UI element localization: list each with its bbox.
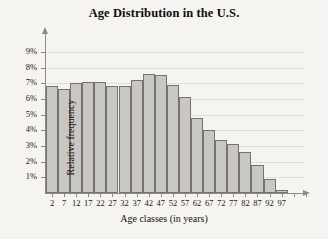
y-axis-tick [41, 130, 46, 131]
y-axis-title: Relative frequency [65, 68, 76, 208]
y-axis-tick [41, 83, 46, 84]
gridline [46, 52, 304, 53]
x-axis-tick [257, 193, 258, 197]
x-axis-tick [149, 193, 150, 197]
plot-area: Relative frequency [46, 44, 304, 193]
y-axis-tick [41, 162, 46, 163]
bar [251, 165, 263, 193]
bar [155, 75, 167, 193]
y-axis-tick-label: 8% [9, 63, 37, 72]
y-axis-tick [41, 68, 46, 69]
x-axis-tick [64, 193, 65, 197]
y-axis-tick-label: 9% [9, 47, 37, 56]
bar [215, 140, 227, 193]
bar [46, 86, 58, 193]
y-axis-tick-label: 2% [9, 157, 37, 166]
y-axis-tick [41, 146, 46, 147]
gridline [46, 68, 304, 69]
x-axis-tick [233, 193, 234, 197]
bar [106, 86, 118, 193]
bar [131, 80, 143, 193]
y-axis-tick-label: 7% [9, 78, 37, 87]
x-axis-tick [245, 193, 246, 197]
x-axis-tick [112, 193, 113, 197]
x-axis-tick [100, 193, 101, 197]
x-axis-tick [161, 193, 162, 197]
x-axis-tick [52, 193, 53, 197]
bar [264, 179, 276, 193]
x-axis-tick-label: 97 [273, 198, 291, 208]
x-axis-tick [125, 193, 126, 197]
y-axis-tick [41, 99, 46, 100]
x-axis-line [45, 193, 304, 194]
x-axis-tick [137, 193, 138, 197]
x-axis-tick [270, 193, 271, 197]
bar [143, 74, 155, 193]
y-axis-tick-label: 3% [9, 141, 37, 150]
bar [191, 118, 203, 193]
bar [167, 85, 179, 193]
bar [119, 86, 131, 193]
bar [94, 82, 106, 193]
x-axis-title: Age classes (in years) [0, 213, 328, 224]
chart-container: Age Distribution in the U.S. Relative fr… [0, 0, 328, 239]
x-axis-tick [88, 193, 89, 197]
y-axis-tick-label: 1% [9, 172, 37, 181]
x-axis-tick [306, 193, 307, 197]
x-axis-tick [173, 193, 174, 197]
chart-title: Age Distribution in the U.S. [0, 6, 328, 21]
x-axis-tick [282, 193, 283, 197]
y-axis-tick [41, 115, 46, 116]
bar [203, 130, 215, 193]
bar [82, 82, 94, 193]
y-axis-tick-label: 6% [9, 94, 37, 103]
x-axis-tick [221, 193, 222, 197]
y-axis-tick-label: 4% [9, 125, 37, 134]
y-axis-tick [41, 177, 46, 178]
y-axis-tick-label: 5% [9, 110, 37, 119]
x-axis-tick [294, 193, 295, 197]
bar [239, 152, 251, 193]
x-axis-tick [197, 193, 198, 197]
x-axis-tick [185, 193, 186, 197]
y-axis-tick [41, 52, 46, 53]
bar [227, 144, 239, 193]
x-axis-tick [76, 193, 77, 197]
x-axis-tick [209, 193, 210, 197]
bar [179, 97, 191, 193]
